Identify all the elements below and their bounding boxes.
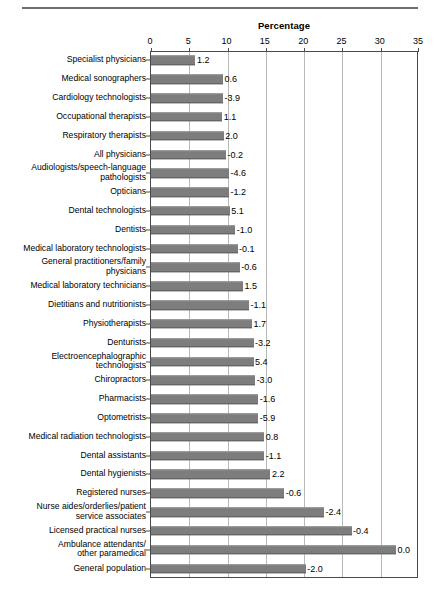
y-tick-mark [146, 60, 150, 61]
bar-row: Dietitians and nutritionists-1.1 [0, 296, 440, 315]
bar-row: Denturists-3.2 [0, 333, 440, 352]
y-tick-mark [146, 305, 150, 306]
bar-value-label: -2.4 [323, 507, 341, 517]
bar [151, 526, 352, 536]
bar-row: Chiropractors-3.0 [0, 371, 440, 390]
y-tick-mark [146, 455, 150, 456]
y-tick-mark [146, 436, 150, 437]
y-tick-mark [146, 568, 150, 569]
bar-value-label: 5.1 [229, 206, 244, 216]
bar-value-label: -4.6 [228, 168, 246, 178]
bar [151, 300, 249, 310]
category-label: General population [1, 564, 146, 574]
category-label: Medical sonographers [1, 74, 146, 84]
category-label: Medical laboratory technicians [1, 281, 146, 291]
category-label: Chiropractors [1, 376, 146, 386]
y-tick-mark [146, 399, 150, 400]
bar-row: Audiologists/speech-language pathologist… [0, 164, 440, 183]
bar [151, 263, 240, 273]
bar-value-label: -1.1 [263, 451, 281, 461]
x-tick-label-35: 35 [413, 36, 423, 46]
bar-row: Specialist physicians1.2 [0, 51, 440, 70]
bar [151, 169, 229, 179]
bar [151, 225, 235, 235]
category-label: Denturists [1, 338, 146, 348]
bar [151, 206, 230, 216]
bar [151, 376, 255, 386]
y-tick-mark [146, 342, 150, 343]
x-tick-label-0: 0 [147, 36, 152, 46]
category-label: Dental hygienists [1, 470, 146, 480]
bar-value-label: 2.0 [223, 131, 238, 141]
bar-row: Opticians-1.2 [0, 183, 440, 202]
category-label: Dentists [1, 225, 146, 235]
y-tick-mark [146, 210, 150, 211]
y-tick-mark [146, 248, 150, 249]
bar-row: Physiotherapists1.7 [0, 315, 440, 334]
bar-value-label: 0.0 [395, 545, 410, 555]
bar-value-label: -3.9 [222, 93, 240, 103]
bar [151, 187, 229, 197]
y-tick-mark [146, 135, 150, 136]
bar [151, 150, 226, 160]
y-tick-mark [146, 493, 150, 494]
bar [151, 507, 324, 517]
y-tick-mark [146, 361, 150, 362]
bar [151, 564, 306, 574]
bar-value-label: -1.1 [248, 300, 266, 310]
bar [151, 112, 222, 122]
y-tick-mark [146, 173, 150, 174]
bar-value-label: -3.2 [253, 338, 271, 348]
category-label: Electroencephalographic technologists [1, 352, 146, 371]
bar [151, 470, 270, 480]
x-tick-label-5: 5 [186, 36, 191, 46]
category-label: Registered nurses [1, 489, 146, 499]
bar [151, 319, 252, 329]
category-label: Dental assistants [1, 451, 146, 461]
bar [151, 56, 195, 66]
category-label: Cardiology technologists [1, 93, 146, 103]
bar-value-label: -0.4 [351, 526, 369, 536]
bar-value-label: -0.6 [239, 262, 257, 272]
bar-row: Pharmacists-1.6 [0, 390, 440, 409]
bar-value-label: -2.0 [305, 564, 323, 574]
category-label: Medical radiation technologists [1, 432, 146, 442]
bar-value-label: -0.1 [237, 244, 255, 254]
x-tick-label-30: 30 [375, 36, 385, 46]
bar-row: Ambulance attendants/ other paramedical0… [0, 540, 440, 559]
top-divider-rule [22, 7, 418, 9]
bar-value-label: 1.1 [221, 112, 236, 122]
bar-value-label: -1.0 [234, 225, 252, 235]
bar-row: Dentists-1.0 [0, 220, 440, 239]
chart-figure: Percentage 05101520253035 Specialist phy… [0, 0, 440, 597]
y-tick-mark [146, 286, 150, 287]
bar [151, 131, 224, 141]
bar-value-label: 1.5 [242, 281, 257, 291]
bar-row: General population-2.0 [0, 559, 440, 578]
category-label: Licensed practical nurses [1, 526, 146, 536]
bar-row: Licensed practical nurses-0.4 [0, 522, 440, 541]
bar [151, 545, 396, 555]
y-tick-mark [146, 512, 150, 513]
bar-value-label: -1.2 [228, 187, 246, 197]
y-tick-mark [146, 267, 150, 268]
category-label: Dental technologists [1, 206, 146, 216]
y-tick-mark [146, 418, 150, 419]
bar-row: Cardiology technologists-3.9 [0, 89, 440, 108]
y-tick-mark [146, 79, 150, 80]
x-tick-label-10: 10 [222, 36, 232, 46]
bar [151, 338, 254, 348]
y-tick-mark [146, 530, 150, 531]
category-label: Respiratory therapists [1, 131, 146, 141]
bar-row: Nurse aides/orderlies/patient service as… [0, 503, 440, 522]
bar-row: All physicians-0.2 [0, 145, 440, 164]
bar-row: Medical sonographers0.6 [0, 70, 440, 89]
category-label: All physicians [1, 150, 146, 160]
bar-row: Medical laboratory technologists-0.1 [0, 239, 440, 258]
x-tick-label-25: 25 [336, 36, 346, 46]
bar-value-label: 0.6 [222, 74, 237, 84]
bar-value-label: 2.2 [269, 469, 284, 479]
bar [151, 74, 223, 84]
x-tick-label-15: 15 [260, 36, 270, 46]
category-label: Medical laboratory technologists [1, 244, 146, 254]
